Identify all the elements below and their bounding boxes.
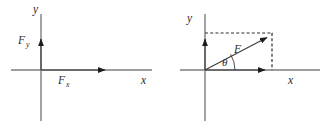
svg-text:x: x [65, 80, 70, 89]
figure-canvas: x y F x F y [0, 0, 326, 129]
right-angle-label: θ [222, 56, 228, 68]
left-fy-label: F y [17, 34, 30, 49]
resultant-diagram: x y F θ [180, 12, 320, 121]
left-fx-label: F x [57, 74, 70, 89]
right-resultant-label: F [233, 43, 242, 55]
components-diagram: x y F x F y [11, 3, 152, 121]
svg-text:F: F [57, 74, 66, 86]
left-y-axis-label: y [32, 3, 39, 16]
svg-text:F: F [17, 34, 26, 46]
right-y-axis-label: y [186, 12, 193, 25]
force-vector-figure: x y F x F y [0, 0, 326, 129]
right-x-axis-label: x [287, 74, 294, 86]
svg-text:y: y [25, 40, 30, 49]
left-x-axis-label: x [140, 74, 147, 86]
